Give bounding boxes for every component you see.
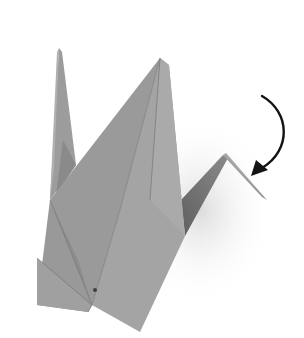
origami-step-figure: Origami crane, fold the head down bbox=[0, 0, 304, 338]
origami-crane-illustration bbox=[0, 0, 304, 338]
curved-arrow-icon bbox=[251, 96, 284, 176]
center-point bbox=[93, 288, 97, 292]
